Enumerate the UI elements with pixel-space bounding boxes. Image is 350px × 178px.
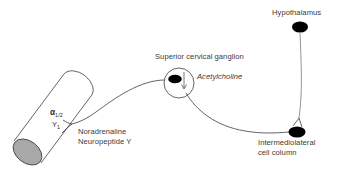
vessel-far-cap [64, 71, 93, 96]
descending-fibre-path [299, 33, 301, 118]
hypothalamus-node [292, 22, 308, 33]
fibre-branch-alpha [63, 120, 72, 124]
preganglionic-fibre-path [186, 93, 289, 133]
alpha-receptor-label: α1/2 [50, 108, 63, 119]
blood-vessel-cylinder [8, 71, 93, 171]
y1-receptor-label: Y1 [52, 120, 60, 131]
superior-cervical-ganglion-label: Superior cervical ganglion [155, 52, 244, 62]
iml-fork-right [299, 118, 302, 127]
ganglion-cell-body [168, 75, 182, 84]
noradrenaline-label: Noradrenaline [78, 127, 131, 137]
iml-fork-left [293, 118, 299, 126]
acetylcholine-label: Acetylcholine [197, 72, 242, 82]
neurotransmitter-label-group: Noradrenaline Neuropeptide Y [78, 127, 131, 146]
y1-receptor-subscript: 1 [57, 124, 60, 130]
descending-fibre [293, 33, 302, 127]
intermediolateral-node [289, 127, 306, 138]
preganglionic-fibre [186, 93, 289, 133]
fibre-branch-y1 [62, 124, 72, 133]
superior-cervical-ganglion-node [164, 68, 194, 98]
hypothalamus-label: Hypothalamus [272, 8, 321, 18]
postganglionic-fibre [62, 80, 165, 133]
ganglion-circle [164, 68, 194, 98]
iml-label-line1: Intermediolateral [258, 138, 315, 148]
iml-label-line2: cell column [258, 148, 315, 158]
intermediolateral-label-group: Intermediolateral cell column [258, 138, 315, 157]
alpha-receptor-subscript: 1/2 [55, 112, 63, 118]
neuropeptide-y-label: Neuropeptide Y [78, 137, 131, 147]
vessel-near-cap [8, 134, 47, 171]
diagram-canvas: Hypothalamus Superior cervical ganglion … [0, 0, 350, 178]
